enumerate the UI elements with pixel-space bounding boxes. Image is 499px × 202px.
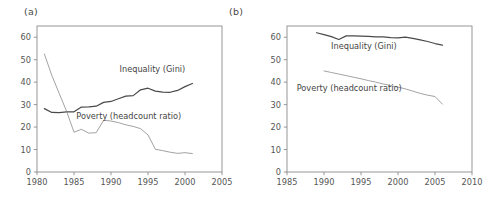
panel-a-tick-labels: 1980198519901995200020050102030405060 <box>21 32 233 186</box>
annotation-inequality: Inequality (Gini) <box>331 41 397 51</box>
svg-text:0: 0 <box>276 167 281 177</box>
svg-text:60: 60 <box>271 32 281 42</box>
annotation-poverty: Poverty (headcount ratio) <box>297 83 402 93</box>
svg-text:1990: 1990 <box>101 177 122 187</box>
panel-a-svg: 1980198519901995200020050102030405060 In… <box>0 0 249 202</box>
svg-text:1985: 1985 <box>277 177 298 187</box>
panel-b-plot: 1985199019952000200520100102030405060 In… <box>250 0 499 202</box>
svg-text:2000: 2000 <box>175 177 196 187</box>
svg-text:10: 10 <box>21 145 31 155</box>
panel-a-plot: 1980198519901995200020050102030405060 In… <box>0 0 249 202</box>
svg-text:2010: 2010 <box>462 177 483 187</box>
annotation-inequality: Inequality (Gini) <box>120 64 186 74</box>
svg-text:40: 40 <box>21 77 31 87</box>
series-line-inequality <box>44 84 192 113</box>
svg-text:0: 0 <box>26 167 31 177</box>
panel-b-label: (b) <box>229 6 243 17</box>
figure-container: (a) 198019851990199520002005010203040506… <box>0 0 499 202</box>
svg-text:20: 20 <box>21 122 31 132</box>
svg-text:1985: 1985 <box>64 177 85 187</box>
svg-text:10: 10 <box>271 145 281 155</box>
svg-text:2005: 2005 <box>212 177 233 187</box>
annotation-poverty: Poverty (headcount ratio) <box>76 111 181 121</box>
svg-text:2000: 2000 <box>388 177 409 187</box>
svg-text:1995: 1995 <box>138 177 159 187</box>
panel-b-svg: 1985199019952000200520100102030405060 In… <box>250 0 499 202</box>
svg-text:40: 40 <box>271 77 281 87</box>
panel-a: (a) 198019851990199520002005010203040506… <box>0 0 249 202</box>
svg-text:30: 30 <box>271 100 281 110</box>
panel-b: (b) 198519901995200020052010010203040506… <box>250 0 499 202</box>
panel-b-annotations: Inequality (Gini)Poverty (headcount rati… <box>297 41 402 93</box>
svg-text:50: 50 <box>271 55 281 65</box>
svg-text:20: 20 <box>271 122 281 132</box>
panel-b-tick-labels: 1985199019952000200520100102030405060 <box>271 32 483 186</box>
svg-text:60: 60 <box>21 32 31 42</box>
svg-text:50: 50 <box>21 55 31 65</box>
svg-text:1995: 1995 <box>351 177 372 187</box>
svg-text:2005: 2005 <box>425 177 446 187</box>
svg-text:1980: 1980 <box>27 177 48 187</box>
svg-text:30: 30 <box>21 100 31 110</box>
svg-text:1990: 1990 <box>314 177 335 187</box>
